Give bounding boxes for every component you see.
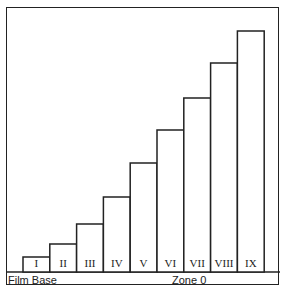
bar-zone-VIII	[211, 63, 238, 272]
zone-label-V: V	[140, 257, 148, 269]
film-base-label: Film Base	[8, 274, 57, 286]
zone-label-VII: VII	[190, 257, 206, 269]
zone-label-IX: IX	[245, 257, 257, 269]
zone-label-IV: IV	[111, 257, 123, 269]
bar-zone-VI	[157, 130, 184, 272]
bar-zone-VII	[184, 98, 211, 272]
zone-label-I: I	[35, 257, 39, 269]
zone-label-VIII: VIII	[215, 257, 234, 269]
zone-label-VI: VI	[165, 257, 177, 269]
zone-label-II: II	[60, 257, 68, 269]
zone-label-III: III	[85, 257, 96, 269]
zone-0-label: Zone 0	[172, 274, 206, 286]
bar-zone-V	[130, 163, 157, 272]
bar-zone-IX	[237, 31, 264, 272]
zone-density-diagram: Film Base Zone 0 IIIIIIIVVVIVIIVIIIIX	[0, 0, 286, 299]
